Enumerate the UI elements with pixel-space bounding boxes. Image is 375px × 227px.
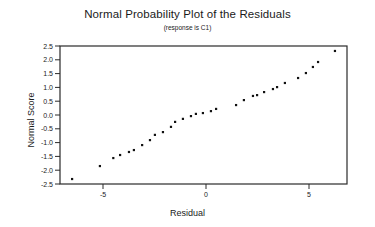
- plot-area: 2.52.01.51.00.50.0-0.5-1.0-1.5-2.0-2.5 -…: [0, 0, 375, 227]
- data-point: [334, 50, 336, 52]
- data-point: [195, 113, 197, 115]
- data-point: [174, 121, 176, 123]
- data-point: [133, 149, 135, 151]
- data-point: [141, 144, 143, 146]
- data-point: [182, 118, 184, 120]
- data-point: [215, 108, 217, 110]
- data-points: [71, 50, 336, 180]
- data-point: [272, 88, 274, 90]
- plot-frame: [60, 46, 347, 184]
- data-point: [284, 82, 286, 84]
- data-point: [297, 77, 299, 79]
- data-point: [170, 126, 172, 128]
- data-point: [128, 151, 130, 153]
- data-point: [305, 72, 307, 74]
- y-tick-label: -0.5: [41, 125, 53, 132]
- data-point: [202, 112, 204, 114]
- data-point: [235, 104, 237, 106]
- x-tick-label: 0: [204, 191, 208, 198]
- y-tick-label: -1.0: [41, 139, 53, 146]
- data-point: [256, 94, 258, 96]
- y-tick-label: -2.0: [41, 167, 53, 174]
- data-point: [263, 91, 265, 93]
- data-point: [154, 134, 156, 136]
- data-point: [162, 131, 164, 133]
- data-point: [99, 165, 101, 167]
- data-point: [252, 95, 254, 97]
- data-point: [317, 61, 319, 63]
- data-point: [312, 66, 314, 68]
- plot-border: [60, 46, 347, 184]
- y-tick-label: 1.5: [43, 70, 53, 77]
- data-point: [243, 99, 245, 101]
- x-axis-ticks: -505: [100, 184, 311, 198]
- y-tick-label: 2.5: [43, 43, 53, 50]
- data-point: [119, 154, 121, 156]
- y-axis-ticks: 2.52.01.51.00.50.0-0.5-1.0-1.5-2.0-2.5: [41, 43, 60, 188]
- data-point: [112, 157, 114, 159]
- y-tick-label: -2.5: [41, 181, 53, 188]
- data-point: [210, 110, 212, 112]
- data-point: [149, 139, 151, 141]
- data-point: [190, 115, 192, 117]
- x-tick-label: -5: [100, 191, 106, 198]
- y-tick-label: -1.5: [41, 153, 53, 160]
- y-tick-label: 2.0: [43, 56, 53, 63]
- x-tick-label: 5: [307, 191, 311, 198]
- data-point: [276, 86, 278, 88]
- y-tick-label: 0.5: [43, 98, 53, 105]
- y-tick-label: 0.0: [43, 112, 53, 119]
- y-tick-label: 1.0: [43, 84, 53, 91]
- data-point: [71, 178, 73, 180]
